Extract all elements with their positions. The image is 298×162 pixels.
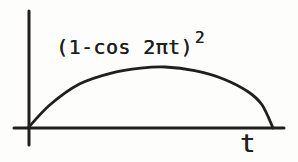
function-plot-figure: (1-cos 2πt)2 t [0, 0, 298, 162]
function-label-exponent: 2 [195, 28, 205, 47]
function-label: (1-cos 2πt)2 [56, 31, 203, 59]
function-curve [28, 67, 273, 128]
x-axis-label: t [240, 129, 255, 158]
function-label-base: (1-cos 2πt) [56, 35, 193, 59]
